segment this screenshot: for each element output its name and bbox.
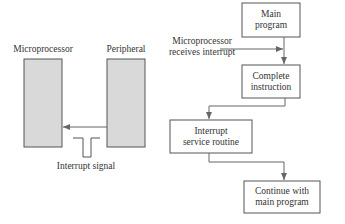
isr-to-continue-arrow [209,153,284,180]
annotation-line1: Microprocessor [160,36,244,47]
node-line1: Continue with [255,186,309,197]
microprocessor-block [24,59,62,147]
node-line2: service routine [183,137,239,148]
continue-text: Continue withmain program [244,181,320,213]
node-line1: Interrupt [183,126,239,137]
microprocessor-label: Microprocessor [4,44,82,55]
node-line2: instruction [251,82,292,93]
peripheral-label: Peripheral [96,44,156,55]
interrupt-signal-label: Interrupt signal [46,161,126,172]
interrupt-pulse-waveform [73,138,100,157]
node-line1: Main [255,9,287,20]
complete-to-isr-arrow [209,98,285,119]
node-line2: program [255,20,287,31]
annotation-line2: receives interrupt [160,47,244,58]
complete-instruction-text: Completeinstruction [242,65,300,98]
node-line2: main program [255,197,309,208]
peripheral-block [107,59,145,147]
isr-text: Interruptservice routine [170,120,252,153]
receives-interrupt-annotation: Microprocessor receives interrupt [160,36,244,58]
main-program-text: Mainprogram [242,3,300,37]
node-line1: Complete [251,71,292,82]
